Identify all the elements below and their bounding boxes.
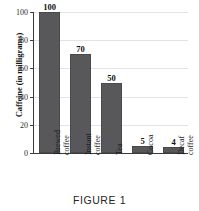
y-tick-label: 0: [24, 149, 28, 158]
category-label-line: Cocoa: [146, 135, 155, 155]
category-label-line: coffee: [186, 109, 195, 155]
y-tick-label: 60: [20, 64, 28, 73]
x-axis-category-label: Decafcoffee: [178, 109, 195, 155]
x-axis-category-label: Instantcoffee: [85, 109, 102, 155]
y-tick-mark: [30, 12, 34, 13]
figure-container: Caffeine (in milligrams) 020406080100 10…: [0, 0, 199, 211]
bar-value-label: 100: [43, 2, 56, 12]
x-axis-category-label: Cocoa: [147, 109, 156, 155]
x-axis-category-label: Tea: [116, 109, 125, 155]
y-axis-line: [33, 12, 34, 153]
y-tick-label: 80: [20, 36, 28, 45]
category-label-line: Brewed: [53, 130, 62, 155]
y-tick-mark: [30, 97, 34, 98]
bar-value-label: 50: [107, 73, 116, 83]
y-tick-mark: [30, 125, 34, 126]
y-tick-mark: [30, 68, 34, 69]
y-tick-label: 100: [16, 8, 28, 17]
x-axis-category-label: Brewedcoffee: [54, 109, 71, 155]
category-label-line: coffee: [62, 109, 71, 155]
y-tick-label: 40: [20, 92, 28, 101]
bar-value-label: 5: [140, 136, 144, 146]
y-tick-mark: [30, 153, 34, 154]
y-tick-label: 20: [20, 120, 28, 129]
category-label-line: Tea: [115, 144, 124, 155]
category-label-line: coffee: [93, 109, 102, 155]
category-label-line: Instant: [84, 133, 93, 155]
bar-value-label: 70: [76, 44, 85, 54]
category-label-line: Decaf: [177, 136, 186, 155]
figure-caption: FIGURE 1: [0, 194, 199, 206]
y-tick-mark: [30, 40, 34, 41]
bar-value-label: 4: [171, 137, 175, 147]
